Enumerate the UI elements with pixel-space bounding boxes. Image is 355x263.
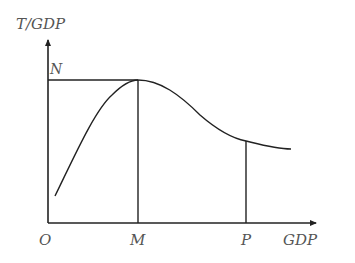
n-label: N [49, 61, 63, 77]
tgdp-curve [55, 80, 291, 196]
origin-label: O [39, 231, 51, 249]
tgdp-diagram: T/GDP N O M P GDP [0, 0, 355, 263]
y-axis-label: T/GDP [16, 15, 66, 33]
m-label: M [129, 231, 146, 249]
x-axis-label: GDP [283, 231, 318, 249]
p-label: P [240, 231, 252, 249]
